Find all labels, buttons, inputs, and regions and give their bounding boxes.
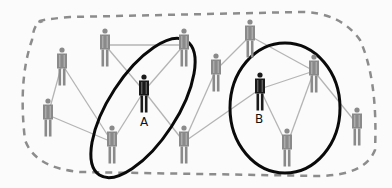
edge-n9-n10 [287,71,314,145]
network-graph [0,0,392,188]
person-icon [179,28,189,66]
group-ellipses [71,22,340,188]
edge-n2-A [105,45,144,91]
edge-n8-n9 [250,36,314,71]
community-boundary [23,12,376,176]
person-icon [179,125,189,163]
edge-n4-n5 [48,115,112,142]
person-icon [245,19,255,57]
person-icon [107,125,117,163]
person-icon [57,47,67,85]
person-icon [352,107,362,145]
network-diagram: A B [0,0,392,188]
person-icon [100,28,110,66]
label-B: B [255,113,263,125]
label-A: A [140,116,148,128]
person-icon [211,53,221,91]
edge-B-n9 [260,71,314,89]
person-icon [309,54,319,92]
person-icon-B [255,72,265,110]
edge-n1-n5 [62,64,112,142]
person-icon-A [139,74,149,112]
